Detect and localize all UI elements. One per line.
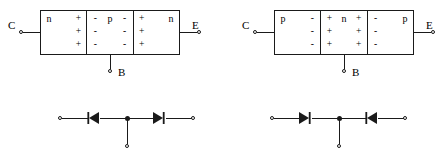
charge-row: + n: [134, 12, 179, 25]
charge-row: - p -: [87, 12, 132, 25]
left-diode-icon: [86, 111, 100, 125]
pnp-collector-label: C: [242, 20, 249, 31]
pnp-base-terminal-node: [342, 69, 346, 73]
charge-symbol: +: [356, 38, 362, 51]
charge-symbol: +: [356, 25, 362, 38]
pnp-collector-material: p: [280, 12, 286, 25]
pnp-base-region: + n + + + + +: [320, 11, 366, 54]
charge-row: +: [134, 25, 179, 38]
charge-row: + +: [321, 25, 366, 38]
charge-symbol: +: [139, 25, 145, 38]
pnp-base-material: n: [341, 12, 347, 25]
pnp-emitter-region: - p - -: [367, 11, 413, 54]
right-diode-icon: [152, 111, 166, 125]
charge-symbol: +: [139, 38, 145, 51]
charge-row: +: [41, 25, 86, 38]
charge-row: +: [134, 38, 179, 51]
npn-emitter-material: n: [168, 12, 174, 25]
charge-symbol: +: [326, 12, 332, 25]
transistor-structure-figure: C n + + + - p: [0, 0, 439, 158]
npn-base-material: p: [107, 12, 113, 25]
pnp-emitter-lead: [414, 32, 431, 33]
charge-row: + +: [321, 38, 366, 51]
right-wire-segment: [166, 118, 192, 119]
pnp-collector-lead: [257, 32, 274, 33]
right-diode-icon: [364, 111, 378, 125]
mid-right-wire-segment: [340, 118, 366, 119]
charge-row: -: [275, 38, 320, 51]
charge-symbol: -: [122, 12, 128, 25]
npn-diode-equivalent-circuit: [58, 106, 218, 154]
pnp-emitter-material: p: [402, 12, 408, 25]
charge-row: - -: [87, 25, 132, 38]
left-wire-segment: [274, 118, 300, 119]
charge-symbol: +: [75, 25, 81, 38]
pnp-semiconductor-block: p - - - + n + +: [274, 10, 414, 55]
mid-right-wire-segment: [128, 118, 154, 119]
charge-symbol: -: [373, 38, 379, 51]
charge-symbol: -: [122, 25, 128, 38]
npn-emitter-region: + n + +: [133, 11, 179, 54]
charge-symbol: -: [309, 25, 315, 38]
npn-base-label: B: [118, 67, 125, 78]
charge-row: -: [368, 38, 413, 51]
npn-collector-material: n: [46, 12, 52, 25]
charge-symbol: +: [326, 38, 332, 51]
mid-left-wire-segment: [312, 118, 340, 119]
charge-symbol: -: [92, 25, 98, 38]
charge-row: -: [368, 25, 413, 38]
charge-symbol: -: [309, 12, 315, 25]
charge-row: + n +: [321, 12, 366, 25]
charge-row: -: [275, 25, 320, 38]
npn-transistor-diagram: C n + + + - p: [4, 2, 204, 82]
charge-row: p -: [275, 12, 320, 25]
charge-row: - -: [87, 38, 132, 51]
npn-collector-lead: [23, 32, 40, 33]
base-terminal-node: [125, 144, 129, 148]
right-terminal-node: [191, 116, 195, 120]
charge-symbol: -: [122, 38, 128, 51]
npn-base-terminal-node: [108, 69, 112, 73]
base-wire-segment: [127, 118, 128, 144]
charge-symbol: +: [75, 38, 81, 51]
pnp-emitter-label: E: [426, 20, 433, 31]
pnp-transistor-diagram: C p - - - + n: [238, 2, 438, 82]
npn-collector-region: n + + +: [41, 11, 86, 54]
charge-symbol: -: [92, 38, 98, 51]
charge-row: +: [41, 38, 86, 51]
left-wire-segment: [62, 118, 88, 119]
left-diode-icon: [298, 111, 312, 125]
charge-symbol: +: [139, 12, 145, 25]
npn-emitter-label: E: [192, 20, 199, 31]
pnp-collector-region: p - - -: [275, 11, 320, 54]
right-wire-segment: [378, 118, 404, 119]
pnp-base-label: B: [352, 67, 359, 78]
charge-symbol: +: [356, 12, 362, 25]
charge-row: n +: [41, 12, 86, 25]
base-terminal-node: [337, 144, 341, 148]
charge-symbol: -: [309, 38, 315, 51]
npn-base-lead: [110, 55, 111, 69]
npn-collector-label: C: [8, 20, 15, 31]
mid-left-wire-segment: [100, 118, 128, 119]
charge-symbol: -: [373, 25, 379, 38]
charge-symbol: -: [92, 12, 98, 25]
npn-emitter-lead: [180, 32, 197, 33]
npn-base-region: - p - - - - -: [86, 11, 132, 54]
base-wire-segment: [339, 118, 340, 144]
right-terminal-node: [403, 116, 407, 120]
npn-semiconductor-block: n + + + - p - -: [40, 10, 180, 55]
charge-symbol: -: [373, 12, 379, 25]
charge-symbol: +: [326, 25, 332, 38]
pnp-diode-equivalent-circuit: [270, 106, 430, 154]
charge-row: - p: [368, 12, 413, 25]
pnp-base-lead: [344, 55, 345, 69]
charge-symbol: +: [75, 12, 81, 25]
